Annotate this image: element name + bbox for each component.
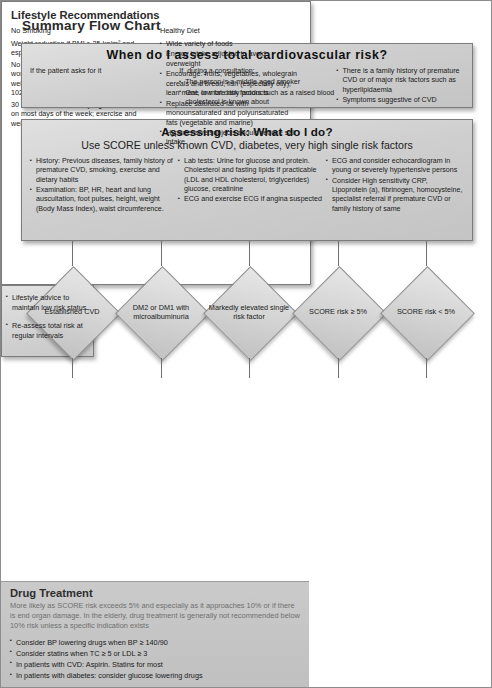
decision-established-cvd: Established CVD bbox=[26, 266, 118, 358]
list-item: Examination: BP, HR, heart and lung ausc… bbox=[30, 186, 178, 214]
connector-line-top-2 bbox=[161, 241, 162, 266]
list-item: Lab tests: Urine for glucose and protein… bbox=[178, 157, 326, 194]
connector-line-top-3 bbox=[249, 241, 250, 266]
flow-chart-page: Summary Flow Chart When do I assess tota… bbox=[0, 0, 492, 688]
list-item: Hypertensive subjects should reduce salt… bbox=[160, 129, 301, 148]
box-assess-col3-list: ECG and consider echocardiogram in young… bbox=[326, 157, 464, 214]
list-item: History: Previous diseases, family histo… bbox=[30, 157, 178, 185]
connector-line-bottom-2 bbox=[161, 358, 162, 378]
box-assess-col1-list: History: Previous diseases, family histo… bbox=[30, 157, 178, 214]
list-item: Symptoms suggestive of CVD bbox=[336, 96, 466, 105]
box-when-column-3: There is a family history of premature C… bbox=[336, 67, 466, 108]
list-item: Wide variety of foods bbox=[160, 40, 301, 49]
list-item: Replace saturated fat with monounsaturat… bbox=[160, 100, 301, 128]
diamond-label: SCORE risk < 5% bbox=[380, 307, 472, 316]
box-assess-column-1: History: Previous diseases, family histo… bbox=[30, 157, 178, 215]
box-when-col1-text: If the patient asks for it bbox=[30, 67, 179, 76]
list-item: Lifestyle advice to maintain low risk st… bbox=[6, 293, 88, 312]
list-item: There is a family history of premature C… bbox=[336, 67, 466, 95]
decision-dm2-dm1: DM2 or DM1 with microalbuminuria bbox=[115, 266, 207, 358]
decision-score-ge-5: SCORE risk ≥ 5% bbox=[292, 266, 384, 358]
connector-line-top-5 bbox=[426, 241, 427, 266]
connector-line-bottom-5 bbox=[426, 358, 427, 378]
lifestyle-healthy-diet-label: Healthy Diet bbox=[160, 26, 301, 35]
page-title: Summary Flow Chart bbox=[22, 18, 161, 33]
box-when-col3-list: There is a family history of premature C… bbox=[336, 67, 466, 105]
diamond-label: SCORE risk ≥ 5% bbox=[292, 307, 384, 316]
decision-score-lt-5: SCORE risk < 5% bbox=[380, 266, 472, 358]
connector-line-top-1 bbox=[72, 241, 73, 266]
list-item: Encourage: fruits, vegetables, wholegrai… bbox=[160, 70, 301, 98]
list-item: ECG and exercise ECG if angina suspected bbox=[178, 195, 326, 204]
box-when-column-1: If the patient asks for it bbox=[28, 67, 179, 108]
healthy-diet-list: Wide variety of foods Energy intake adju… bbox=[160, 40, 301, 148]
connector-line-bottom-1 bbox=[72, 358, 73, 378]
diamond-label: Markedly elevated single risk factor bbox=[203, 303, 295, 322]
list-item: Consider High sensitivity CRP, Lipoprote… bbox=[326, 177, 464, 214]
decision-elevated-risk-factor: Markedly elevated single risk factor bbox=[203, 266, 295, 358]
box-assess-col2-list: Lab tests: Urine for glucose and protein… bbox=[178, 157, 326, 205]
connector-line-bottom-3 bbox=[249, 358, 250, 378]
diamond-label: DM2 or DM1 with microalbuminuria bbox=[115, 303, 207, 322]
list-item: Re-assess total risk at regular interval… bbox=[6, 321, 88, 340]
connector-line-bottom-4 bbox=[338, 358, 339, 378]
connector-line-top-4 bbox=[338, 241, 339, 266]
box-assess-column-2: Lab tests: Urine for glucose and protein… bbox=[178, 157, 326, 215]
lifestyle-column-right: Healthy Diet Wide variety of foods Energ… bbox=[154, 26, 301, 149]
list-item: Energy intake adjusted to avoid overweig… bbox=[160, 50, 301, 69]
list-item: ECG and consider echocardiogram in young… bbox=[326, 157, 464, 176]
box-assess-column-3: ECG and consider echocardiogram in young… bbox=[326, 157, 464, 215]
